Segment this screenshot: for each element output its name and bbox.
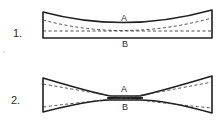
figure-1-dashed-curve — [43, 18, 212, 31]
figure-1-label-a: A — [121, 13, 127, 23]
figure-2-label-b: B — [122, 102, 128, 112]
figure-1-number: 1. — [13, 27, 22, 39]
figure-1: 1. A B — [13, 10, 212, 49]
figure-2: 2. A B — [11, 76, 212, 113]
figure-1-label-b: B — [122, 39, 128, 49]
stray-dot — [3, 51, 5, 53]
figure-2-label-a: A — [121, 84, 127, 94]
diagram-canvas: 1. A B 2. A B — [0, 0, 220, 121]
figure-2-number: 2. — [11, 94, 20, 106]
